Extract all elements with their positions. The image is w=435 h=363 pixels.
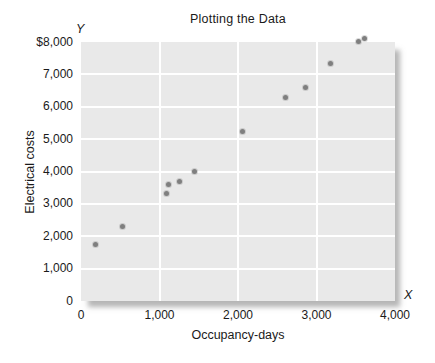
data-point (93, 242, 98, 247)
x-tick-label: 4,000 (365, 308, 425, 323)
x-axis-title: Occupancy-days (81, 328, 395, 342)
y-tick-label: 2,000 (0, 229, 73, 244)
gridline-vertical (237, 42, 239, 301)
y-tick-label: 3,000 (0, 196, 73, 211)
y-tick-label: 0 (0, 294, 73, 309)
data-point (192, 169, 197, 174)
data-point (120, 224, 125, 229)
data-point (164, 191, 169, 196)
data-point (356, 39, 361, 44)
data-point (177, 179, 182, 184)
y-tick-label: $8,000 (0, 35, 73, 50)
scatter-chart: Plotting the Data Y X Electrical costs O… (0, 0, 435, 363)
x-tick-label: 0 (51, 308, 111, 323)
data-point (328, 61, 333, 66)
x-tick-label: 3,000 (287, 308, 347, 323)
data-point (283, 95, 288, 100)
data-point (362, 36, 367, 41)
plot-area (81, 42, 395, 301)
y-tick-label: 5,000 (0, 132, 73, 147)
y-tick-label: 1,000 (0, 261, 73, 276)
y-axis-symbol: Y (76, 22, 84, 36)
x-axis-symbol: X (404, 288, 412, 302)
data-point (303, 85, 308, 90)
gridline-vertical (316, 42, 318, 301)
y-tick-label: 4,000 (0, 164, 73, 179)
chart-title: Plotting the Data (81, 12, 395, 26)
y-tick-label: 7,000 (0, 67, 73, 82)
x-tick-label: 2,000 (208, 308, 268, 323)
x-tick-label: 1,000 (130, 308, 190, 323)
y-tick-label: 6,000 (0, 99, 73, 114)
gridline-vertical (159, 42, 161, 301)
data-point (166, 182, 171, 187)
data-point (240, 129, 245, 134)
